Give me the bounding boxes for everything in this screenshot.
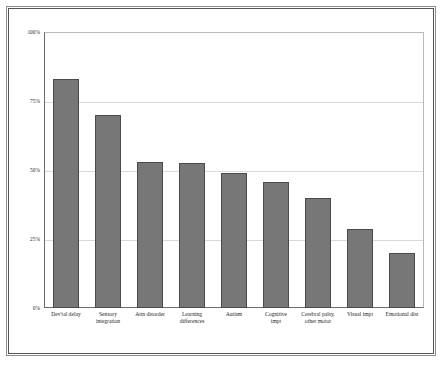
x-tick-label-line1: Visual impt [340, 311, 380, 318]
bar-4[interactable] [179, 163, 205, 308]
bar-5[interactable] [221, 173, 247, 308]
bar-slot [255, 33, 297, 308]
x-tick-label-line2: integration [88, 318, 128, 325]
bar-slot [87, 33, 129, 308]
x-tick-label: Dev'tal delay [45, 311, 87, 351]
figure-container: 100%75%50%25%0% Dev'tal delaySensoryinte… [0, 0, 444, 365]
x-tick-label: Emotional dist [381, 311, 423, 351]
x-tick-label: Cerebral palsy,other motor [297, 311, 339, 351]
x-tick-label: Cognitiveimpt [255, 311, 297, 351]
y-tick-label: 50% [0, 167, 40, 173]
bar-slot [339, 33, 381, 308]
y-tick-label: 75% [0, 98, 40, 104]
bar-3[interactable] [137, 162, 163, 308]
x-tick-label-line1: Dev'tal delay [46, 311, 86, 318]
x-tick-label: Sensoryintegration [87, 311, 129, 351]
bar-slot [45, 33, 87, 308]
x-tick-label-line1: Learning [172, 311, 212, 318]
bar-8[interactable] [347, 229, 373, 308]
bar-7[interactable] [305, 198, 331, 308]
x-tick-label-line1: Autism [214, 311, 254, 318]
bar-2[interactable] [95, 115, 121, 308]
x-tick-label-line2: differences [172, 318, 212, 325]
x-tick-label: Autism [213, 311, 255, 351]
x-tick-label: Learningdifferences [171, 311, 213, 351]
bar-slot [381, 33, 423, 308]
bar-6[interactable] [263, 182, 289, 308]
x-tick-label: Visual impt [339, 311, 381, 351]
y-tick-label: 25% [0, 236, 40, 242]
bar-slot [129, 33, 171, 308]
x-axis-labels: Dev'tal delaySensoryintegrationAttn diso… [45, 311, 423, 351]
x-tick-label-line1: Emotional dist [382, 311, 422, 318]
bars-group [45, 33, 423, 308]
bar-1[interactable] [53, 79, 79, 308]
bar-slot [297, 33, 339, 308]
x-tick-label-line1: Sensory [88, 311, 128, 318]
x-tick-label-line1: Cognitive [256, 311, 296, 318]
bar-slot [171, 33, 213, 308]
y-tick-label: 100% [0, 29, 40, 35]
bar-9[interactable] [389, 253, 415, 308]
x-tick-label-line2: impt [256, 318, 296, 325]
x-tick-label: Attn disorder [129, 311, 171, 351]
bar-slot [213, 33, 255, 308]
y-tick-label: 0% [0, 305, 40, 311]
x-tick-label-line1: Attn disorder [130, 311, 170, 318]
bar-chart: 100%75%50%25%0% Dev'tal delaySensoryinte… [0, 0, 444, 365]
x-tick-label-line1: Cerebral palsy, [298, 311, 338, 318]
x-tick-label-line2: other motor [298, 318, 338, 325]
